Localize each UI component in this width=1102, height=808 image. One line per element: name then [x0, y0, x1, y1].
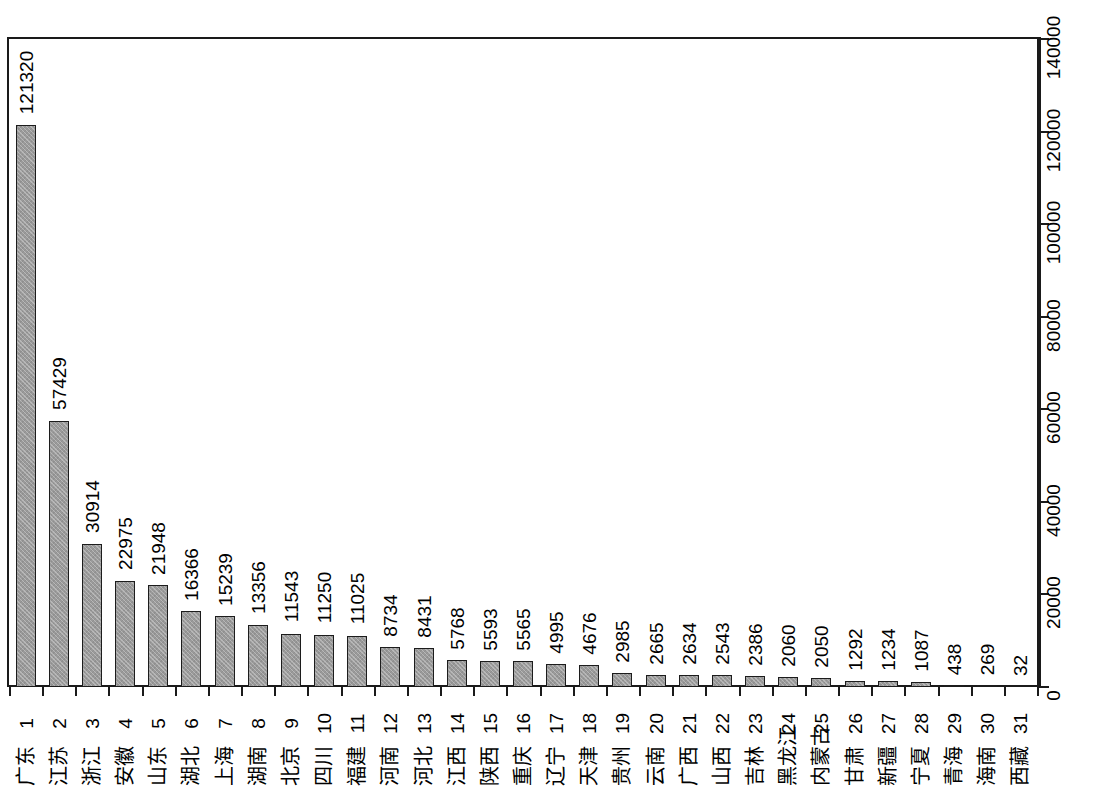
x-label-category: 湖南 [248, 746, 268, 786]
bar-group: 4995 [540, 39, 573, 687]
x-label-index: 3 [82, 718, 101, 729]
bar [314, 635, 334, 687]
x-tick [108, 687, 110, 696]
bar-group: 121320 [9, 39, 42, 687]
x-label-index: 31 [1011, 713, 1030, 734]
bar-group: 5565 [506, 39, 539, 687]
bar-group: 11025 [341, 39, 374, 687]
x-label-index: 17 [547, 713, 566, 734]
y-tick-label: 120000 [1044, 108, 1063, 171]
bar-value-label: 15239 [215, 553, 234, 606]
x-label-index: 30 [978, 713, 997, 734]
x-label-index: 28 [911, 713, 930, 734]
x-tick [772, 687, 774, 696]
x-tick [75, 687, 77, 696]
x-tick [739, 687, 741, 696]
x-tick [9, 687, 11, 696]
x-tick [175, 687, 177, 696]
y-tick-label: 140000 [1044, 16, 1063, 79]
bar-value-label: 30914 [82, 480, 101, 533]
x-label-category: 青海 [944, 746, 964, 786]
bar-value-label: 438 [945, 643, 964, 675]
x-label-category: 北京 [281, 746, 301, 786]
bar [679, 675, 699, 687]
bar [281, 634, 301, 687]
bar-value-label: 16366 [182, 548, 201, 601]
bar [612, 673, 632, 687]
x-label-index: 22 [712, 713, 731, 734]
bar-value-label: 57429 [49, 358, 68, 411]
x-label-index: 2 [49, 718, 68, 729]
x-axis-labels: 1广东2江苏3浙江4安徽5山东6湖北7上海8湖南9北京10四川11福建12河南1… [9, 696, 1037, 808]
x-label-category: 河南 [380, 746, 400, 786]
x-label-group: 11福建 [341, 696, 374, 808]
bars-layer: 1213205742930914229752194816366152391335… [9, 39, 1037, 687]
bar-value-label: 5565 [513, 609, 532, 651]
bar [215, 616, 235, 687]
x-tick [440, 687, 442, 696]
x-label-index: 9 [281, 718, 300, 729]
x-label-category: 吉林 [745, 746, 765, 786]
bar [811, 678, 831, 687]
x-label-index: 4 [116, 718, 135, 729]
y-tick-label: 100000 [1044, 201, 1063, 264]
bar-group: 11250 [307, 39, 340, 687]
bar-group: 5593 [473, 39, 506, 687]
x-label-category: 新疆 [878, 746, 898, 786]
x-label-group: 20云南 [639, 696, 672, 808]
bar-value-label: 5593 [480, 608, 499, 650]
bar-value-label: 1234 [878, 629, 897, 671]
x-label-index: 29 [945, 713, 964, 734]
bar-group: 1234 [871, 39, 904, 687]
bar [181, 611, 201, 687]
bar [115, 581, 135, 687]
y-axis: 020000400006000080000100000120000140000 [1039, 37, 1051, 687]
bar-value-label: 11543 [281, 571, 300, 622]
x-label-group: 8湖南 [241, 696, 274, 808]
bar-group: 22975 [108, 39, 141, 687]
x-tick [1037, 687, 1039, 696]
bar-value-label: 2386 [746, 623, 765, 665]
x-label-group: 10四川 [307, 696, 340, 808]
x-tick [938, 687, 940, 696]
bar-value-label: 2634 [679, 622, 698, 664]
bar [712, 675, 732, 687]
x-label-group: 1广东 [9, 696, 42, 808]
x-label-category: 辽宁 [546, 746, 566, 786]
bar-group: 15239 [208, 39, 241, 687]
y-tick-label: 40000 [1044, 484, 1063, 537]
x-tick [142, 687, 144, 696]
bar [646, 675, 666, 687]
y-tick-label: 80000 [1044, 299, 1063, 352]
bar-group: 8734 [374, 39, 407, 687]
x-tick [1004, 687, 1006, 696]
x-tick [705, 687, 707, 696]
x-label-category: 湖北 [181, 746, 201, 786]
x-label-group: 21广西 [672, 696, 705, 808]
x-label-category: 陕西 [480, 746, 500, 786]
x-tick [274, 687, 276, 696]
x-label-category: 西藏 [1010, 746, 1030, 786]
x-label-group: 25内蒙古 [805, 696, 838, 808]
x-tick [606, 687, 608, 696]
x-label-category: 天津 [579, 746, 599, 786]
x-label-category: 安徽 [115, 746, 135, 786]
bar-value-label: 22975 [116, 517, 135, 570]
x-label-category: 四川 [314, 746, 334, 786]
bar-value-label: 11025 [348, 573, 367, 624]
bar-value-label: 8734 [381, 594, 400, 636]
bar [380, 647, 400, 687]
bar-group: 16366 [175, 39, 208, 687]
x-label-index: 1 [16, 718, 35, 729]
bar-group: 5768 [440, 39, 473, 687]
bar-value-label: 1087 [911, 629, 930, 671]
bar-value-label: 21948 [149, 522, 168, 575]
x-tick [838, 687, 840, 696]
bar-value-label: 2050 [812, 625, 831, 667]
x-label-index: 26 [845, 713, 864, 734]
x-label-category: 海南 [977, 746, 997, 786]
bar [148, 585, 168, 687]
x-label-group: 4安徽 [108, 696, 141, 808]
bar [248, 625, 268, 687]
y-tick-label: 0 [1044, 690, 1063, 701]
